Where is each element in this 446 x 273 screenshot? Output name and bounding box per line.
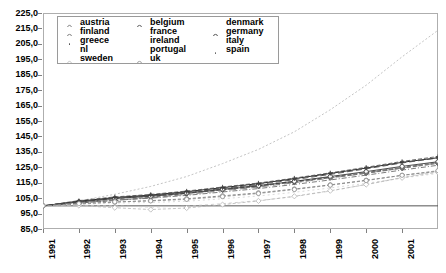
legend-swatch-icon — [131, 27, 148, 36]
legend-swatch-icon — [207, 27, 224, 36]
legend-item-portugal[interactable]: portugal — [131, 45, 207, 54]
legend-label: ireland — [150, 36, 180, 45]
legend-swatch-icon — [61, 45, 78, 54]
x-axis-tick-label: 1994 — [155, 239, 164, 259]
legend-swatch-icon — [61, 27, 78, 36]
x-axis-tick-label: 2001 — [407, 239, 416, 259]
x-axis-tick-label: 1993 — [119, 239, 128, 259]
line-chart: 225,0215,0205,0195,0185,0175,0165,0155,0… — [0, 0, 446, 273]
legend-label: greece — [80, 36, 109, 45]
legend-item-denmark[interactable]: denmark — [207, 18, 279, 27]
x-axis-tick-mark — [115, 229, 116, 233]
legend-swatch-icon — [131, 54, 148, 63]
legend-swatch-icon — [207, 18, 224, 27]
x-axis-tick-mark — [43, 229, 44, 233]
x-axis-tick-mark — [294, 229, 295, 233]
x-axis-tick-mark — [258, 229, 259, 233]
x-axis-tick-label: 1996 — [227, 239, 236, 259]
legend-item-nl[interactable]: nl — [61, 45, 131, 54]
legend-swatch-icon — [131, 36, 148, 45]
legend: austriabelgiumdenmarkfinlandfrancegerman… — [57, 16, 279, 64]
legend-label: uk — [150, 54, 161, 63]
legend-item-belgium[interactable]: belgium — [131, 18, 207, 27]
legend-item-ireland[interactable]: ireland — [131, 36, 207, 45]
legend-swatch-icon — [61, 18, 78, 27]
legend-label: portugal — [150, 45, 186, 54]
legend-label: italy — [226, 36, 244, 45]
x-axis-tick-mark — [366, 229, 367, 233]
legend-label: nl — [80, 45, 88, 54]
x-axis-tick-mark — [187, 229, 188, 233]
legend-item-italy[interactable]: italy — [207, 36, 279, 45]
x-axis-tick-mark — [79, 229, 80, 233]
data-point-marker — [67, 61, 72, 63]
legend-item-finland[interactable]: finland — [61, 27, 131, 36]
legend-label: denmark — [226, 18, 264, 27]
x-axis-tick-mark — [223, 229, 224, 233]
legend-item-germany[interactable]: germany — [207, 27, 279, 36]
legend-label: finland — [80, 27, 110, 36]
x-axis-tick-mark — [402, 229, 403, 233]
legend-swatch-icon — [207, 36, 224, 45]
x-axis-tick-label: 1995 — [191, 239, 200, 259]
legend-swatch-icon — [131, 18, 148, 27]
x-axis-tick-label: 1991 — [48, 239, 57, 259]
x-axis-tick-mark — [151, 229, 152, 233]
legend-item-greece[interactable]: greece — [61, 36, 131, 45]
data-point-marker — [137, 61, 141, 63]
x-axis-tick-label: 1999 — [335, 239, 344, 259]
x-axis-tick-label: 1992 — [83, 239, 92, 259]
legend-item-france[interactable]: france — [131, 27, 207, 36]
legend-label: sweden — [80, 54, 113, 63]
legend-label: spain — [226, 45, 250, 54]
legend-swatch-icon — [61, 54, 78, 63]
legend-item-austria[interactable]: austria — [61, 18, 131, 27]
x-axis-tick-label: 1998 — [299, 239, 308, 259]
legend-item-sweden[interactable]: sweden — [61, 54, 131, 63]
legend-swatch-icon — [131, 45, 148, 54]
legend-label: france — [150, 27, 177, 36]
x-axis-tick-mark — [330, 229, 331, 233]
x-axis-tick-label: 1997 — [263, 239, 272, 259]
x-axis-tick-label: 2000 — [371, 239, 380, 259]
legend-label: belgium — [150, 18, 185, 27]
legend-item-spain[interactable]: spain — [207, 45, 279, 54]
legend-label: austria — [80, 18, 110, 27]
legend-swatch-icon — [61, 36, 78, 45]
legend-label: germany — [226, 27, 264, 36]
legend-swatch-icon — [207, 45, 224, 54]
legend-item-uk[interactable]: uk — [131, 54, 207, 63]
